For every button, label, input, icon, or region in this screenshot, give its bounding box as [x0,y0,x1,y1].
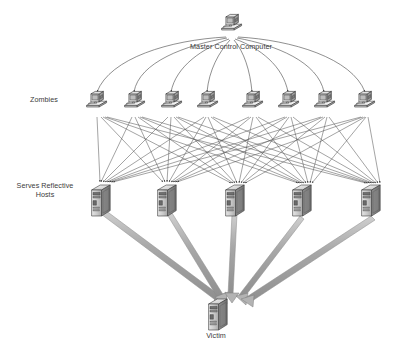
node-zombie-3[interactable] [162,91,182,107]
node-zombie-5[interactable] [243,91,263,107]
node-zombie-7[interactable] [315,91,335,107]
node-zombie-4[interactable] [198,91,218,107]
node-victim-server[interactable] [209,299,228,330]
label-victim: Victim [186,331,246,340]
node-zombie-8[interactable] [355,91,375,107]
node-zombie-2[interactable] [125,91,145,107]
diagram-canvas [0,0,399,349]
node-reflective-host-1[interactable] [92,185,111,216]
node-reflective-host-5[interactable] [362,185,381,216]
node-zombie-1[interactable] [87,91,107,107]
label-serves-reflective-hosts: Serves Reflective Hosts [2,181,88,199]
zombie-nodes [87,91,375,107]
node-master-control-computer[interactable] [222,14,242,30]
node-reflective-host-3[interactable] [226,185,245,216]
reflective-host-nodes [92,185,381,216]
label-master-control-computer: Master Control Computer [176,42,286,51]
drdos-attack-diagram: Master Control Computer Zombies Serves R… [0,0,399,349]
node-reflective-host-4[interactable] [293,185,312,216]
node-zombie-6[interactable] [279,91,299,107]
edges-hosts-to-victim [101,210,375,307]
node-reflective-host-2[interactable] [158,185,177,216]
label-zombies: Zombies [8,95,80,104]
edges-zombies-to-reflective-hosts [97,117,380,183]
